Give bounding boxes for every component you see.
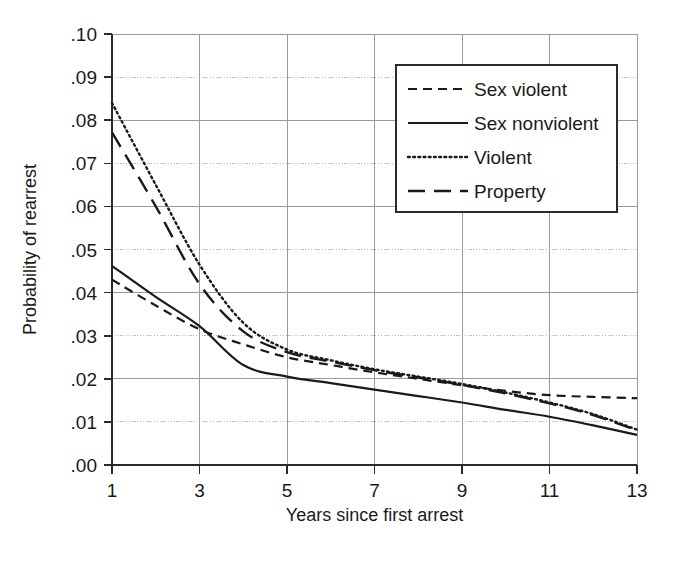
chart-figure: .00.01.02.03.04.05.06.07.08.09.101357911… <box>0 0 695 561</box>
legend-layer: Sex violentSex nonviolentViolentProperty <box>396 65 617 212</box>
x-axis-tick-label: 11 <box>540 480 560 501</box>
legend-label-property: Property <box>474 181 546 202</box>
line-chart-svg: .00.01.02.03.04.05.06.07.08.09.101357911… <box>0 0 695 561</box>
y-axis-tick-label: .08 <box>71 110 97 131</box>
y-axis-tick-label: .00 <box>71 455 97 476</box>
y-axis-tick-label: .05 <box>71 240 97 261</box>
y-axis-tick-label: .02 <box>71 369 97 390</box>
x-axis-tick-label: 13 <box>626 480 647 501</box>
x-axis-tick-label: 7 <box>369 480 380 501</box>
y-axis-tick-label: .09 <box>71 67 97 88</box>
y-axis-tick-label: .10 <box>71 24 97 45</box>
x-axis-tick-label: 3 <box>194 480 205 501</box>
y-axis-tick-label: .07 <box>71 153 97 174</box>
x-axis-tick-label: 1 <box>107 480 118 501</box>
x-axis-tick-label: 9 <box>457 480 468 501</box>
y-axis-tick-label: .03 <box>71 326 97 347</box>
y-axis-tick-label: .04 <box>71 283 98 304</box>
x-axis-title: Years since first arrest <box>286 505 463 525</box>
y-axis-title: Probability of rearrest <box>20 164 40 335</box>
legend-label-violent: Violent <box>474 147 532 168</box>
legend-label-sex-nonviolent: Sex nonviolent <box>474 113 599 134</box>
legend-label-sex-violent: Sex violent <box>474 79 568 100</box>
y-axis-tick-label: .06 <box>71 196 97 217</box>
y-axis-tick-label: .01 <box>71 412 97 433</box>
x-axis-tick-label: 5 <box>282 480 293 501</box>
